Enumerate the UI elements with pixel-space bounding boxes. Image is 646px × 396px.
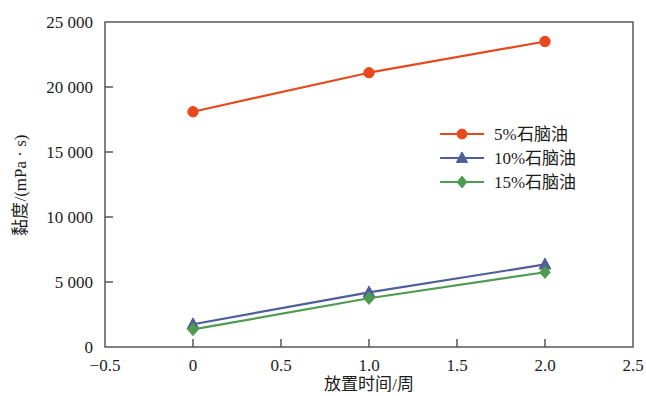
x-tick-label: 2.5 (622, 356, 643, 375)
y-tick-label: 5 000 (55, 273, 93, 292)
x-tick-label: 0.5 (270, 356, 291, 375)
chart-legend: 5%石脑油10%石脑油15%石脑油 (440, 125, 576, 192)
viscosity-line-chart: 05 00010 00015 00020 00025 000 −0.500.51… (0, 0, 646, 396)
y-axis-title: 黏度/(mPa · s) (11, 134, 30, 235)
legend-label: 5%石脑油 (494, 125, 568, 144)
y-tick-label: 25 000 (46, 13, 93, 32)
y-tick-label: 15 000 (46, 143, 93, 162)
legend-marker (457, 129, 467, 139)
legend-item-1[interactable]: 5%石脑油 (440, 125, 568, 144)
series-1 (188, 36, 550, 117)
data-point-marker (188, 107, 198, 117)
x-tick-label: 2.0 (534, 356, 555, 375)
x-axis-tick-labels: −0.500.51.01.52.02.5 (90, 356, 644, 375)
data-point-marker (540, 36, 550, 46)
legend-label: 15%石脑油 (494, 173, 576, 192)
legend-item-2[interactable]: 10%石脑油 (440, 149, 576, 168)
y-tick-label: 20 000 (46, 78, 93, 97)
data-point-marker (364, 68, 374, 78)
y-axis-tick-labels: 05 00010 00015 00020 00025 000 (46, 13, 93, 357)
y-tick-label: 10 000 (46, 208, 93, 227)
x-tick-label: 1.5 (446, 356, 467, 375)
legend-label: 10%石脑油 (494, 149, 576, 168)
legend-marker (457, 176, 467, 188)
x-axis-tickmarks (193, 339, 545, 347)
x-tick-label: 0 (189, 356, 198, 375)
y-axis-tickmarks (105, 87, 113, 282)
x-tick-label: −0.5 (90, 356, 121, 375)
legend-item-3[interactable]: 15%石脑油 (440, 173, 576, 192)
y-tick-label: 0 (85, 338, 94, 357)
chart-canvas: 05 00010 00015 00020 00025 000 −0.500.51… (0, 0, 646, 396)
x-axis-title: 放置时间/周 (324, 375, 414, 394)
series-3 (188, 266, 551, 336)
x-tick-label: 1.0 (358, 356, 379, 375)
